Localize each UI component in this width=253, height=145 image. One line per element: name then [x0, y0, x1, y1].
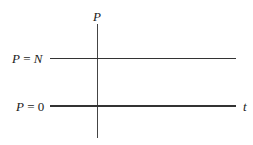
equilibrium-label-zero: P = 0 — [16, 100, 44, 113]
equilibrium-line-n — [50, 58, 236, 59]
vertical-axis-label: P — [93, 10, 101, 23]
vertical-p-axis — [97, 24, 98, 138]
horizontal-axis-label: t — [243, 100, 247, 113]
equilibrium-line-zero — [50, 105, 236, 107]
equilibrium-label-n: P = N — [12, 52, 42, 65]
